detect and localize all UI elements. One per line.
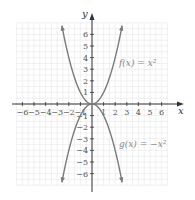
svg-text:1: 1 — [83, 88, 88, 97]
svg-text:−6: −6 — [17, 108, 29, 117]
svg-text:3: 3 — [124, 108, 129, 117]
f-label: f(x) = x² — [119, 58, 156, 68]
svg-text:−3: −3 — [76, 135, 88, 144]
svg-text:2: 2 — [83, 77, 88, 86]
svg-text:4: 4 — [136, 108, 141, 117]
y-axis-label: y — [82, 8, 88, 19]
svg-text:−4: −4 — [40, 108, 52, 117]
function-graph: −6−5−4−3−2−1123456−6−5−4−3−2−1123456 — [0, 0, 195, 200]
svg-text:6: 6 — [159, 108, 164, 117]
svg-text:5: 5 — [83, 42, 88, 51]
svg-text:−5: −5 — [76, 158, 88, 167]
svg-text:−2: −2 — [63, 108, 75, 117]
x-axis-label: x — [178, 105, 184, 116]
svg-text:4: 4 — [83, 54, 88, 63]
svg-text:6: 6 — [83, 30, 88, 39]
g-label: g(x) = −x² — [119, 139, 166, 149]
svg-text:−2: −2 — [76, 123, 88, 132]
svg-text:5: 5 — [147, 108, 152, 117]
y-axis-arrow-icon — [90, 13, 95, 20]
svg-text:−5: −5 — [28, 108, 40, 117]
svg-text:3: 3 — [83, 65, 88, 74]
svg-text:−4: −4 — [76, 146, 88, 155]
svg-text:2: 2 — [113, 108, 118, 117]
svg-text:−6: −6 — [76, 170, 88, 179]
svg-text:−3: −3 — [51, 108, 63, 117]
